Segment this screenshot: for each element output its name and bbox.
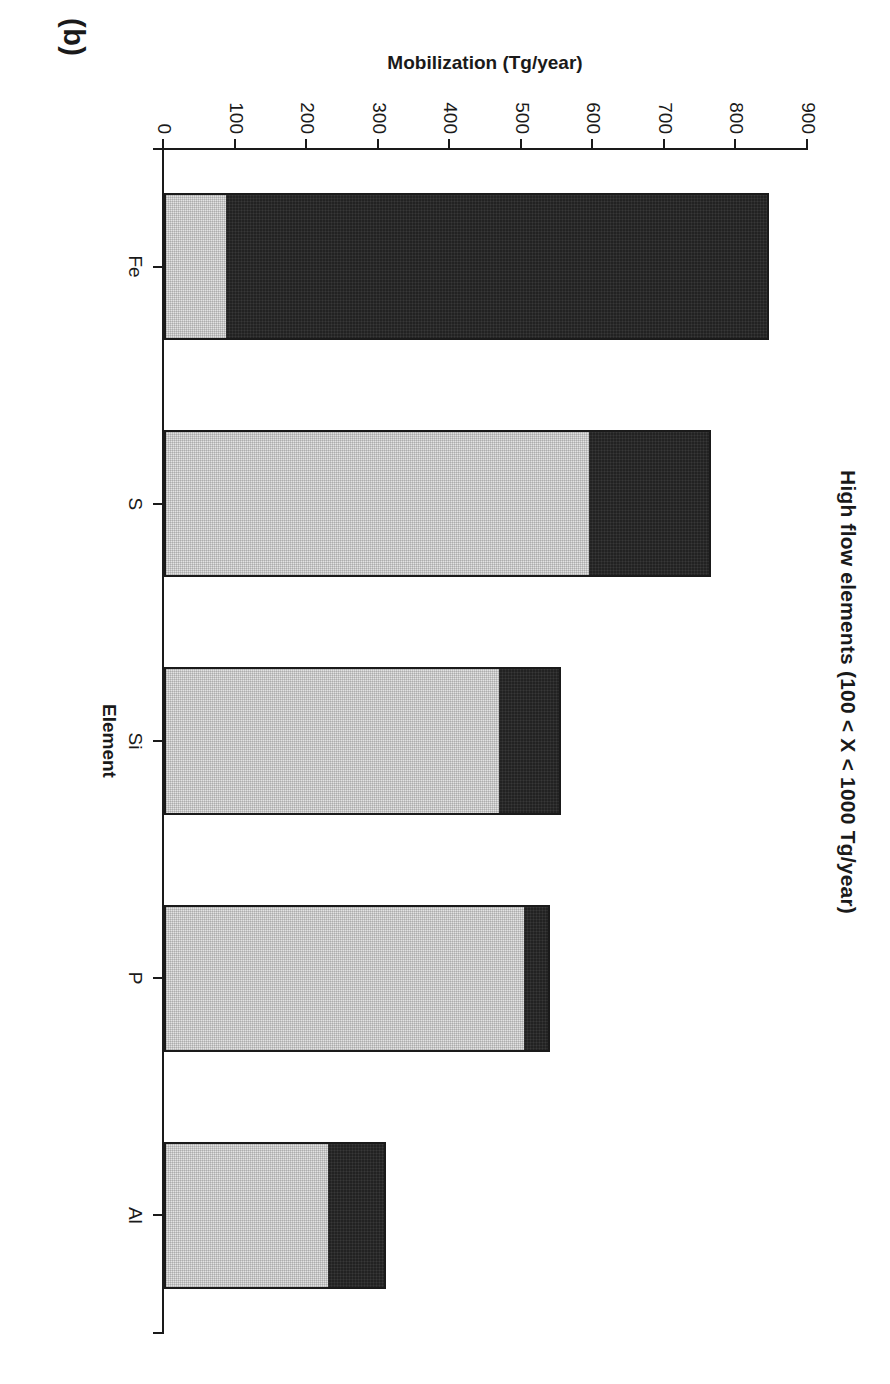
rotated-figure-canvas: (b) High flow elements (100 < X < 1000 T… xyxy=(0,0,890,1384)
value-tick-label: 300 xyxy=(368,102,390,134)
panel-letter: (b) xyxy=(57,18,90,57)
bar-p[interactable] xyxy=(164,905,550,1052)
bar-segment-anthropogenic xyxy=(524,907,549,1050)
category-tick xyxy=(153,503,162,505)
value-tick xyxy=(734,139,736,148)
bar-segment-natural xyxy=(166,1144,328,1287)
bar-segment-anthropogenic xyxy=(499,669,559,812)
figure: (b) High flow elements (100 < X < 1000 T… xyxy=(0,0,890,1384)
bar-segment-anthropogenic xyxy=(589,432,710,575)
chart-title: High flow elements (100 < X < 1000 Tg/ye… xyxy=(836,0,860,1384)
category-axis-end-tick xyxy=(153,148,162,150)
category-label-fe: Fe xyxy=(124,256,146,278)
value-tick-label: 700 xyxy=(654,102,676,134)
bar-segment-anthropogenic xyxy=(328,1144,384,1287)
value-tick-label: 0 xyxy=(153,123,175,134)
value-tick-label: 600 xyxy=(582,102,604,134)
category-label-s: S xyxy=(124,497,146,510)
value-tick xyxy=(448,139,450,148)
value-tick xyxy=(305,139,307,148)
bar-segment-anthropogenic xyxy=(226,195,766,338)
bar-fe[interactable] xyxy=(164,193,769,340)
bar-al[interactable] xyxy=(164,1142,386,1289)
bar-si[interactable] xyxy=(164,667,561,814)
value-tick-label: 900 xyxy=(797,102,819,134)
category-label-si: Si xyxy=(124,733,146,750)
value-axis-spine xyxy=(162,148,808,150)
y-axis-title: Mobilization (Tg/year) xyxy=(162,52,808,74)
plot-area: 0100200300400500600700800900 FeSSiPAl xyxy=(162,148,808,1334)
category-tick xyxy=(153,977,162,979)
value-tick-label: 100 xyxy=(225,102,247,134)
value-tick-label: 200 xyxy=(296,102,318,134)
category-tick xyxy=(153,1214,162,1216)
bar-segment-natural xyxy=(166,669,499,812)
value-tick xyxy=(806,139,808,148)
value-tick xyxy=(162,139,164,148)
value-tick xyxy=(234,139,236,148)
value-tick-label: 400 xyxy=(439,102,461,134)
category-label-p: P xyxy=(124,972,146,985)
value-tick xyxy=(663,139,665,148)
x-axis-title: Element xyxy=(98,148,120,1334)
category-axis-end-tick xyxy=(153,1332,162,1334)
bar-segment-natural xyxy=(166,432,589,575)
value-tick xyxy=(520,139,522,148)
value-tick xyxy=(377,139,379,148)
bar-segment-natural xyxy=(166,195,226,338)
category-label-al: Al xyxy=(124,1207,146,1224)
category-tick xyxy=(153,266,162,268)
value-tick-label: 800 xyxy=(725,102,747,134)
category-tick xyxy=(153,740,162,742)
value-tick-label: 500 xyxy=(511,102,533,134)
value-tick xyxy=(591,139,593,148)
bar-segment-natural xyxy=(166,907,524,1050)
bar-s[interactable] xyxy=(164,430,711,577)
